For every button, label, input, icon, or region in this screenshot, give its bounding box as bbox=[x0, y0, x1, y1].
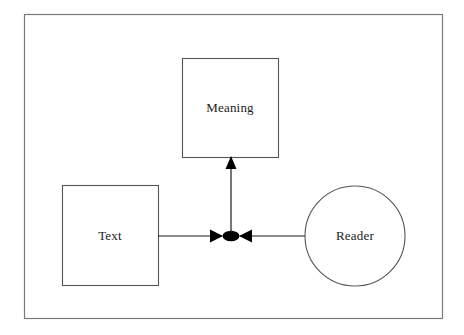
diagram-graphics bbox=[0, 0, 464, 335]
node-text[interactable] bbox=[63, 186, 159, 286]
transaction-junction-node[interactable] bbox=[223, 231, 240, 241]
node-reader[interactable] bbox=[305, 186, 405, 286]
node-meaning[interactable] bbox=[183, 59, 279, 158]
diagram-canvas: Meaning Text Reader bbox=[0, 0, 464, 335]
